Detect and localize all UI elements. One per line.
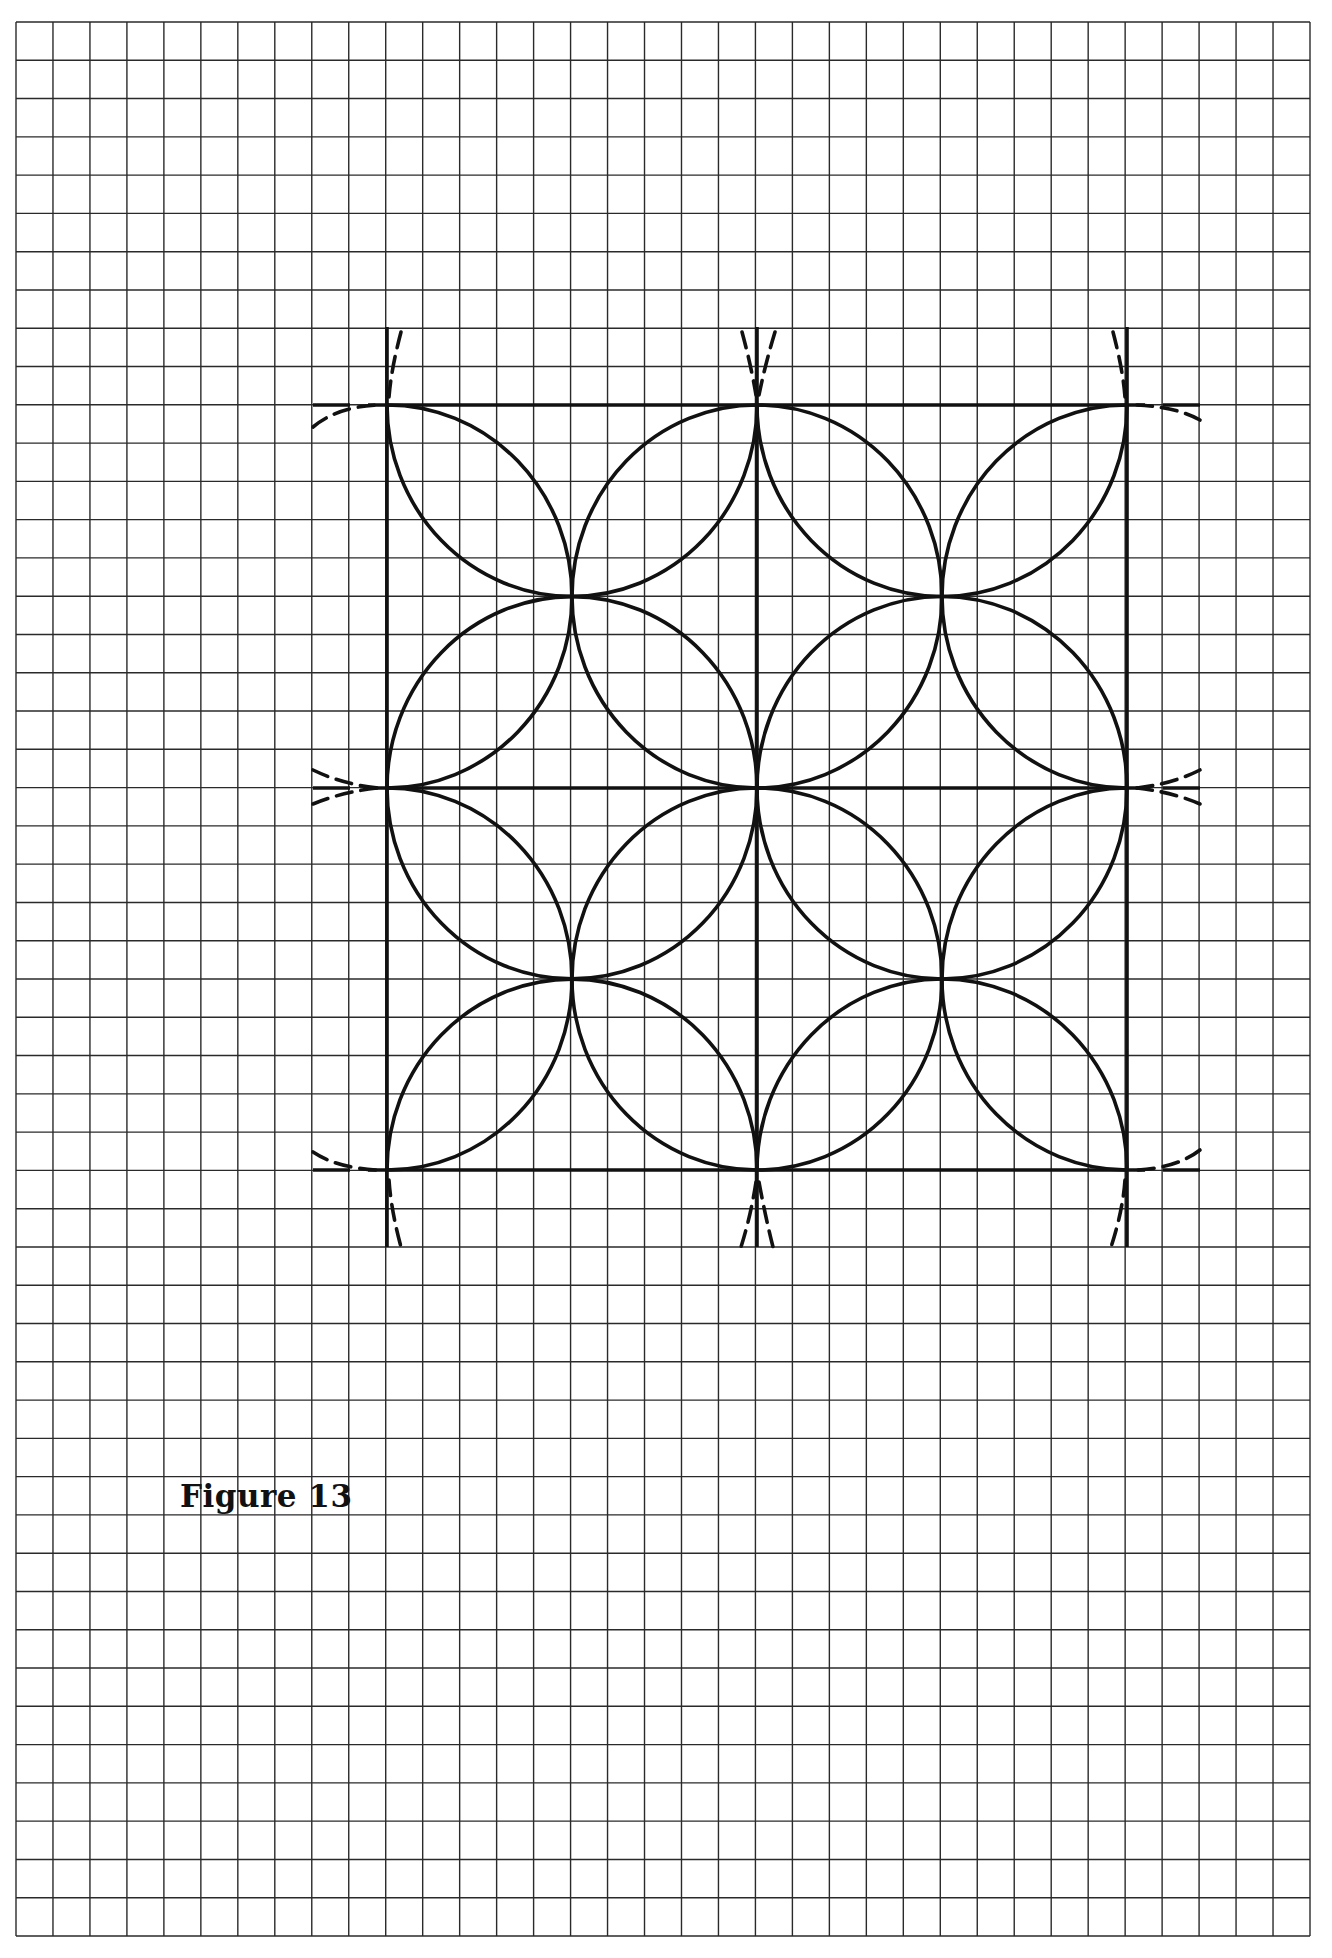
petal-arc: [757, 788, 1127, 979]
petal-arc: [757, 979, 1127, 1170]
construction-arc: [1137, 770, 1200, 788]
construction-arc: [389, 332, 401, 397]
construction-arc: [313, 770, 377, 788]
figure-caption: Figure 13: [180, 1478, 353, 1514]
construction-arc: [1111, 1180, 1125, 1247]
petal-arc: [387, 979, 757, 1170]
petal-arc: [387, 788, 757, 979]
construction-arc: [313, 1152, 377, 1170]
construction-arc: [1137, 1150, 1200, 1170]
construction-arc: [313, 788, 377, 804]
circle-pattern-figure: [313, 327, 1200, 1247]
construction-arc: [1113, 332, 1125, 397]
graph-paper-page: Figure 13: [0, 0, 1332, 1958]
construction-arc: [742, 332, 756, 395]
construction-arc: [741, 1182, 756, 1247]
graph-paper-grid: [16, 22, 1310, 1936]
construction-arc: [389, 1180, 401, 1247]
petal-arc: [757, 405, 1127, 597]
construction-arc: [1137, 788, 1200, 804]
construction-arc: [313, 405, 377, 427]
construction-arc: [759, 332, 775, 395]
figure-canvas: [0, 0, 1332, 1958]
construction-arc: [1137, 405, 1200, 420]
petal-arc: [387, 405, 757, 596]
construction-arc: [759, 1182, 773, 1247]
petal-arc: [387, 597, 757, 788]
petal-arc: [757, 597, 1127, 789]
